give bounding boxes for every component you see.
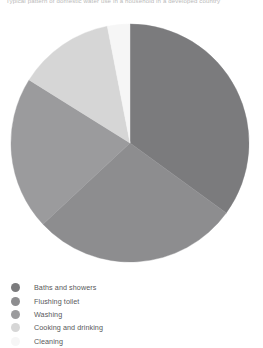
chart-legend: Baths and showers Flushing toilet Washin…	[11, 281, 251, 348]
pie-chart-svg	[0, 0, 263, 272]
legend-label: Flushing toilet	[34, 297, 79, 306]
legend-label: Cleaning	[34, 337, 63, 346]
legend-swatch-icon	[11, 337, 20, 346]
legend-label: Baths and showers	[34, 283, 96, 292]
legend-item-baths-and-showers[interactable]: Baths and showers	[11, 281, 251, 294]
pie-chart-figure: Typical pattern of domestic water use in…	[0, 0, 263, 348]
pie-slice-group	[11, 24, 249, 262]
legend-label: Washing	[34, 310, 62, 319]
legend-label: Cooking and drinking	[34, 323, 103, 332]
legend-swatch-icon	[11, 297, 20, 306]
legend-item-washing[interactable]: Washing	[11, 308, 251, 321]
legend-item-cooking-and-drinking[interactable]: Cooking and drinking	[11, 321, 251, 334]
legend-swatch-icon	[11, 310, 20, 319]
legend-item-cleaning[interactable]: Cleaning	[11, 335, 251, 348]
legend-swatch-icon	[11, 323, 20, 332]
pie-chart-area	[0, 0, 263, 272]
legend-item-flushing-toilet[interactable]: Flushing toilet	[11, 294, 251, 307]
legend-swatch-icon	[11, 283, 20, 292]
